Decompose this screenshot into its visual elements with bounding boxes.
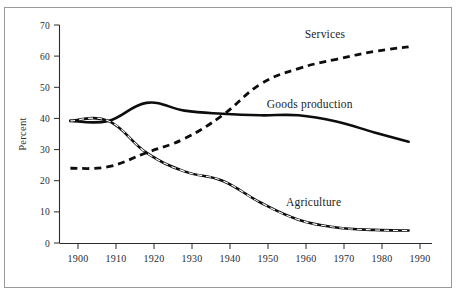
y-tick-label-10: 10 — [40, 207, 50, 217]
series-line-agriculture — [70, 118, 408, 230]
y-axis: 70 60 50 40 30 20 10 0 Percent — [17, 21, 60, 249]
series-labels: Services Goods production Agriculture — [267, 28, 353, 209]
series-label-goods-production: Goods production — [267, 98, 353, 111]
x-tick-label-1980: 1980 — [371, 253, 392, 264]
x-tick-label-1930: 1930 — [181, 253, 202, 264]
x-tick-label-1970: 1970 — [333, 253, 354, 264]
x-tick-label-1950: 1950 — [257, 253, 278, 264]
x-tick-label-1920: 1920 — [143, 253, 164, 264]
y-tick-label-60: 60 — [40, 52, 50, 62]
x-tick-label-1910: 1910 — [105, 253, 126, 264]
x-tick-label-1990: 1990 — [409, 253, 430, 264]
y-tick-label-40: 40 — [40, 114, 50, 124]
y-tick-label-50: 50 — [40, 83, 50, 93]
series-line-goods-production — [70, 103, 408, 142]
series-line-agriculture-overlay — [70, 118, 408, 230]
x-tick-label-1900: 1900 — [67, 253, 88, 264]
x-tick-label-1960: 1960 — [295, 253, 316, 264]
series-group — [70, 47, 408, 231]
y-tick-label-0: 0 — [45, 239, 50, 249]
series-label-agriculture: Agriculture — [286, 196, 341, 209]
y-tick-label-20: 20 — [40, 176, 50, 186]
x-axis: 1900 1910 1920 1930 1940 1950 1960 1970 … — [60, 244, 433, 265]
y-tick-label-30: 30 — [40, 145, 50, 155]
y-tick-label-70: 70 — [40, 21, 50, 31]
series-line-services — [70, 47, 408, 169]
y-axis-title: Percent — [17, 117, 28, 151]
series-label-services: Services — [305, 28, 346, 40]
figure-container: 70 60 50 40 30 20 10 0 Percent 1900 1910 — [0, 0, 456, 295]
x-tick-label-1940: 1940 — [219, 253, 240, 264]
chart-canvas: 70 60 50 40 30 20 10 0 Percent 1900 1910 — [0, 0, 456, 295]
